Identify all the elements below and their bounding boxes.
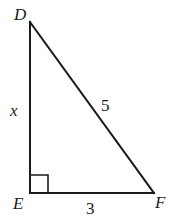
vertex-label-F: F: [154, 193, 166, 212]
vertex-label-D: D: [13, 5, 27, 24]
side-label-DF: 5: [101, 96, 110, 115]
triangle-diagram: D E F x 5 3: [0, 0, 175, 221]
side-label-EF: 3: [86, 199, 95, 218]
right-angle-marker-icon: [30, 175, 48, 193]
vertex-label-E: E: [12, 194, 24, 213]
side-label-DE: x: [9, 101, 18, 120]
side-DF: [30, 22, 154, 193]
